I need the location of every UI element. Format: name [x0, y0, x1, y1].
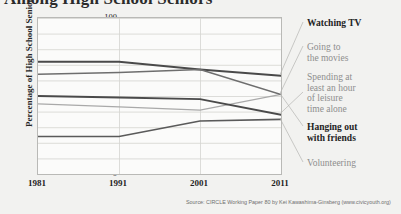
plot-area	[37, 17, 282, 175]
vertical-gridlines	[120, 18, 201, 174]
legend-item: Hanging outwith friends	[307, 122, 401, 143]
legend-item-label: of leisure	[307, 93, 401, 104]
legend-item-label: Hanging out	[307, 122, 401, 133]
x-tick-label: 1991	[98, 178, 138, 188]
legend-item: Volunteering	[307, 158, 401, 169]
legend-item-label: Spending at	[307, 72, 401, 83]
x-tick-label: 2001	[179, 178, 219, 188]
legend-item-label: with friends	[307, 133, 401, 144]
y-axis-title: Percentage of High School Seniors	[24, 0, 34, 137]
legend-item: Spending atleast an hourof leisuretime a…	[307, 72, 401, 114]
series-lines	[38, 62, 281, 137]
x-tick-label: 2011	[260, 178, 300, 188]
x-tick-label: 1981	[17, 178, 57, 188]
legend-item: Watching TV	[307, 18, 401, 29]
legend-item-label: Volunteering	[307, 158, 401, 169]
source-note: Source: CIRCLE Working Paper 80 by Kei K…	[186, 199, 391, 205]
legend-item-label: time alone	[307, 104, 401, 115]
legend-item-label: least an hour	[307, 83, 401, 94]
series-canvas	[38, 18, 281, 174]
chart-figure: Among High School Seniors Percentage of …	[0, 0, 401, 214]
legend-item: Going tothe movies	[307, 42, 401, 63]
legend-item-label: the movies	[307, 53, 401, 64]
legend-item-label: Going to	[307, 42, 401, 53]
page-title: Among High School Seniors	[4, 0, 213, 9]
legend-item-label: Watching TV	[307, 18, 401, 29]
